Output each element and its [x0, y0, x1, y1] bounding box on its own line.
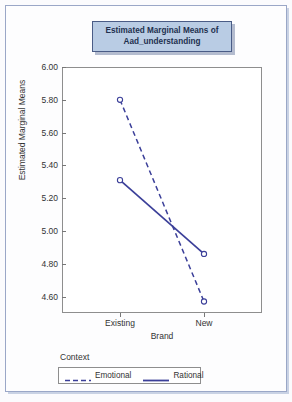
- x-axis-tick-mark: [204, 313, 205, 317]
- y-axis-tick-label: 5.20: [41, 193, 58, 203]
- chart-title-line-2: Aad_understanding: [124, 37, 201, 46]
- y-axis-tick-mark: [62, 100, 66, 101]
- x-axis-tick-label: New: [195, 318, 212, 328]
- series-line: [120, 100, 204, 302]
- legend-label-emotional: Emotional: [95, 371, 131, 380]
- data-point-marker: [117, 97, 122, 102]
- chart-series-layer: [62, 67, 262, 313]
- y-axis-tick-labels: 6.005.805.605.405.205.004.804.60: [20, 67, 58, 313]
- chart-title: Estimated Marginal Means of Aad_understa…: [103, 26, 222, 47]
- legend-swatch-dashed-icon: [65, 371, 91, 380]
- y-axis-tick-mark: [62, 231, 66, 232]
- legend-swatch-solid-icon: [143, 371, 169, 380]
- y-axis-tick-mark: [62, 165, 66, 166]
- legend-title: Context: [60, 352, 89, 362]
- y-axis-tick-label: 5.80: [41, 95, 58, 105]
- legend-label-rational: Rational: [173, 371, 203, 380]
- x-axis-tick-label: Existing: [105, 318, 135, 328]
- series-emotional: [117, 97, 206, 304]
- legend: Emotional Rational: [58, 367, 201, 384]
- y-axis-tick-mark: [62, 264, 66, 265]
- series-line: [120, 180, 204, 254]
- x-axis-title: Brand: [62, 331, 262, 341]
- y-axis-tick-label: 5.40: [41, 160, 58, 170]
- y-axis-tick-label: 5.00: [41, 226, 58, 236]
- y-axis-tick-label: 4.60: [41, 292, 58, 302]
- chart-title-box: Estimated Marginal Means of Aad_understa…: [92, 21, 232, 52]
- x-axis-tick-mark: [120, 313, 121, 317]
- y-axis-tick-label: 5.60: [41, 128, 58, 138]
- y-axis-tick-mark: [62, 133, 66, 134]
- data-point-marker: [201, 251, 206, 256]
- y-axis-tick-label: 4.80: [41, 259, 58, 269]
- data-point-marker: [201, 299, 206, 304]
- legend-item-rational: Rational: [143, 368, 203, 383]
- series-rational: [117, 178, 206, 257]
- data-point-marker: [117, 178, 122, 183]
- legend-item-emotional: Emotional: [65, 368, 131, 383]
- y-axis-tick-label: 6.00: [41, 62, 58, 72]
- chart-title-line-1: Estimated Marginal Means of: [106, 26, 219, 35]
- y-axis-tick-mark: [62, 297, 66, 298]
- y-axis-tick-mark: [62, 67, 66, 68]
- spss-chart-output: Estimated Marginal Means of Aad_understa…: [0, 0, 292, 402]
- y-axis-tick-mark: [62, 198, 66, 199]
